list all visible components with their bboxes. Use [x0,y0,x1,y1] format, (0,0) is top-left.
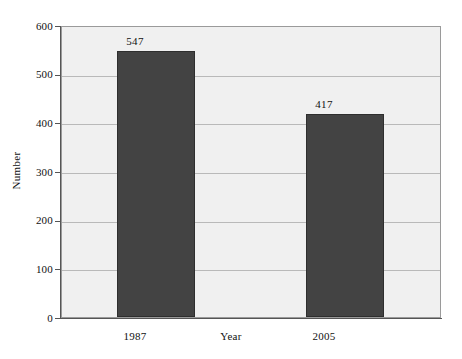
y-tick-mark-400 [55,123,61,124]
value-label-2005: 417 [285,99,363,110]
plot-area [61,26,441,318]
y-tick-mark-100 [55,269,61,270]
x-axis-title: Year [0,331,462,342]
x-axis-line [60,318,442,319]
bar-chart: 600 500 400 300 200 100 0 547 417 1987 2… [0,0,462,359]
y-tick-mark-600 [55,26,61,27]
bar-1987 [117,51,195,317]
bar-2005 [306,114,384,317]
y-tick-mark-0 [55,318,61,319]
y-tick-mark-300 [55,172,61,173]
y-tick-label-500: 500 [5,69,53,80]
y-tick-label-100: 100 [5,264,53,275]
y-tick-mark-200 [55,221,61,222]
y-tick-label-200: 200 [5,215,53,226]
y-axis-title: Number [11,139,22,203]
y-tick-label-600: 600 [5,21,53,32]
value-label-1987: 547 [96,36,174,47]
y-tick-label-0: 0 [5,313,53,324]
y-tick-mark-500 [55,75,61,76]
y-tick-label-400: 400 [5,118,53,129]
